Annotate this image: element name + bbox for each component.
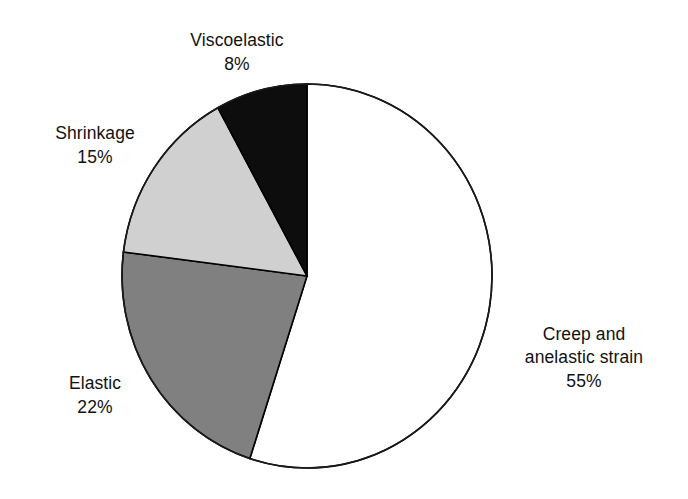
slice-label-creep-name-line2: anelastic strain <box>484 346 684 369</box>
slice-label-elastic-value: 22% <box>12 395 178 419</box>
slice-label-creep-value: 55% <box>484 369 684 393</box>
slice-label-shrinkage-value: 15% <box>10 145 180 169</box>
slice-label-creep-and-anelastic-strain: Creep and anelastic strain 55% <box>484 323 684 393</box>
slice-label-shrinkage-name: Shrinkage <box>10 121 180 145</box>
slice-label-elastic: Elastic 22% <box>12 371 178 419</box>
pie-chart-graphic <box>0 0 688 499</box>
slice-label-shrinkage: Shrinkage 15% <box>10 121 180 169</box>
slice-label-viscoelastic: Viscoelastic 8% <box>137 28 337 76</box>
pie-chart-figure: Viscoelastic 8% Shrinkage 15% Elastic 22… <box>0 0 688 499</box>
slice-label-elastic-name: Elastic <box>12 371 178 395</box>
slice-label-creep-name-line1: Creep and <box>484 323 684 346</box>
slice-label-viscoelastic-value: 8% <box>137 52 337 76</box>
slice-label-viscoelastic-name: Viscoelastic <box>137 28 337 52</box>
